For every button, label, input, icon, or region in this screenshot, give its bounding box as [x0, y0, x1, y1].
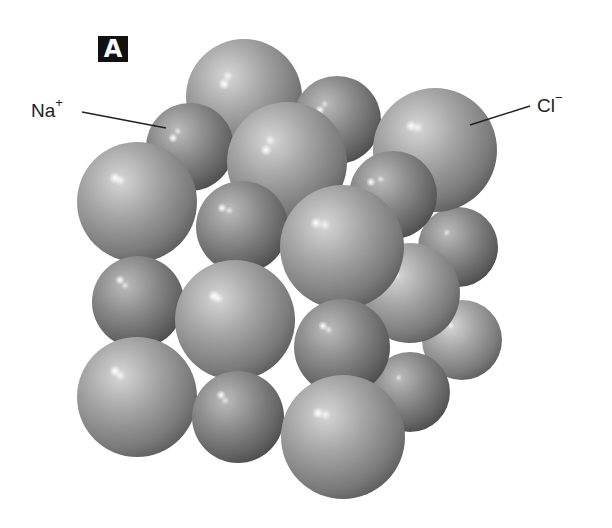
sphere-chloride: [175, 260, 295, 380]
sphere-chloride: [280, 185, 404, 309]
sphere-sodium: [196, 181, 288, 273]
sphere-sodium: [192, 371, 284, 463]
nacl-lattice-diagram: [0, 0, 612, 528]
sphere-chloride: [281, 375, 405, 499]
sphere-sodium: [92, 256, 184, 348]
sodium-leader-line: [82, 112, 166, 128]
sphere-chloride: [77, 337, 197, 457]
sphere-chloride: [77, 142, 197, 262]
